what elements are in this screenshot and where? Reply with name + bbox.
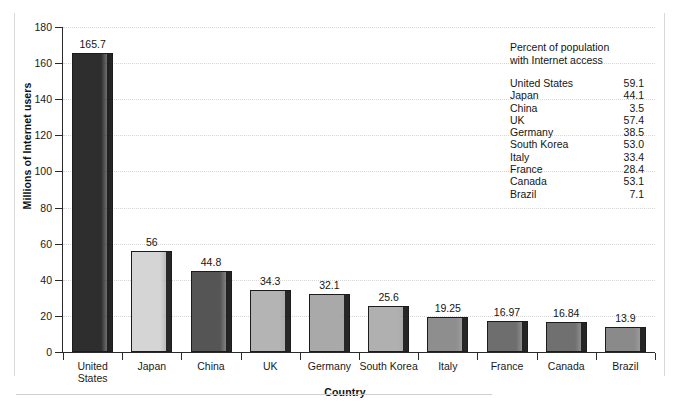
- y-axis-tick: [55, 99, 63, 100]
- annotation-country: China: [510, 102, 611, 114]
- y-axis-tick: [55, 208, 63, 209]
- annotation-country: UK: [510, 114, 611, 126]
- annotation-row: South Korea53.0: [510, 138, 644, 150]
- annotation-percent: 57.4: [611, 114, 644, 126]
- x-axis-category-label: Canada: [537, 361, 596, 373]
- x-axis-category-label: UK: [241, 361, 300, 373]
- bar-value-label: 16.97: [477, 307, 537, 318]
- bar: [487, 321, 528, 352]
- x-axis-tick: [122, 353, 123, 360]
- bar: [605, 327, 646, 352]
- y-axis-tick: [55, 135, 63, 136]
- x-axis-category-label: United States: [63, 361, 122, 384]
- x-axis-category-label: Italy: [418, 361, 477, 373]
- annotation-percent: 28.4: [611, 163, 644, 175]
- bar: [191, 271, 232, 352]
- x-axis-tick: [181, 353, 182, 360]
- y-axis-tick: [55, 352, 63, 353]
- bar: [250, 290, 291, 352]
- y-axis-tick: [55, 171, 63, 172]
- bar-shadow-edge: [226, 272, 231, 351]
- annotation-country: Japan: [510, 89, 611, 101]
- chart-screenshot: 020406080100120140160180 165.75644.834.3…: [0, 0, 690, 417]
- bar-value-label: 165.7: [63, 39, 123, 50]
- annotation-row: Italy33.4: [510, 151, 644, 163]
- bar-shadow-edge: [640, 328, 645, 351]
- bar-shadow-edge: [107, 54, 112, 351]
- annotation-percent: 44.1: [611, 89, 644, 101]
- annotation-title: Percent of population with Internet acce…: [510, 41, 650, 66]
- bar-value-label: 16.84: [536, 308, 596, 319]
- bar-shadow-edge: [462, 318, 467, 351]
- y-axis-title: Millions of Internet users: [21, 51, 33, 241]
- bar-shadow-edge: [581, 323, 586, 351]
- annotation-row: Brazil7.1: [510, 188, 644, 200]
- annotation-panel: Percent of population with Internet acce…: [510, 41, 650, 200]
- annotation-country: South Korea: [510, 138, 611, 150]
- y-axis-tick: [55, 244, 63, 245]
- annotation-country: United States: [510, 77, 611, 89]
- annotation-table: United States59.1Japan44.1China3.5UK57.4…: [510, 77, 644, 200]
- x-axis-category-label: Germany: [300, 361, 359, 373]
- bar-shadow-edge: [522, 322, 527, 351]
- bar-value-label: 13.9: [595, 313, 655, 324]
- bar-value-label: 44.8: [181, 257, 241, 268]
- x-axis-tick: [359, 353, 360, 360]
- annotation-percent: 53.1: [611, 175, 644, 187]
- x-axis-tick: [596, 353, 597, 360]
- x-axis-tick: [63, 353, 64, 360]
- x-axis-tick: [537, 353, 538, 360]
- annotation-row: Canada53.1: [510, 175, 644, 187]
- annotation-row: Japan44.1: [510, 89, 644, 101]
- x-axis-category-label: Japan: [122, 361, 181, 373]
- annotation-country: Canada: [510, 175, 611, 187]
- x-axis-category-label: Brazil: [596, 361, 655, 373]
- bar-shadow-edge: [403, 307, 408, 351]
- annotation-percent: 38.5: [611, 126, 644, 138]
- annotation-row: China3.5: [510, 102, 644, 114]
- annotation-percent: 3.5: [611, 102, 644, 114]
- x-axis-category-label: South Korea: [359, 361, 418, 373]
- x-axis-tick: [477, 353, 478, 360]
- annotation-country: Brazil: [510, 188, 611, 200]
- annotation-percent: 59.1: [611, 77, 644, 89]
- bar-shadow-edge: [344, 295, 349, 351]
- annotation-country: France: [510, 163, 611, 175]
- bar: [427, 317, 468, 352]
- y-axis-tick: [55, 63, 63, 64]
- x-axis-title: Country: [0, 386, 690, 398]
- bar: [72, 53, 113, 352]
- bar-value-label: 25.6: [359, 292, 419, 303]
- x-axis-tick: [418, 353, 419, 360]
- y-axis-tick-label: 0: [8, 347, 52, 358]
- x-axis-tick: [300, 353, 301, 360]
- bar-shadow-edge: [285, 291, 290, 351]
- bar-value-label: 56: [122, 237, 182, 248]
- annotation-percent: 33.4: [611, 151, 644, 163]
- y-axis-tick-label: 180: [8, 22, 52, 33]
- bar: [546, 322, 587, 352]
- bar: [309, 294, 350, 352]
- x-axis-tick: [655, 353, 656, 360]
- annotation-row: France28.4: [510, 163, 644, 175]
- x-axis-tick: [241, 353, 242, 360]
- bar-value-label: 19.25: [418, 303, 478, 314]
- annotation-row: Germany38.5: [510, 126, 644, 138]
- annotation-percent: 7.1: [611, 188, 644, 200]
- bottom-divider: [16, 394, 492, 395]
- y-axis-tick-label: 20: [8, 311, 52, 322]
- bar: [368, 306, 409, 352]
- y-axis-tick: [55, 27, 63, 28]
- bar-value-label: 34.3: [240, 276, 300, 287]
- annotation-country: Italy: [510, 151, 611, 163]
- annotation-country: Germany: [510, 126, 611, 138]
- annotation-row: United States59.1: [510, 77, 644, 89]
- x-axis-category-label: France: [477, 361, 536, 373]
- annotation-percent: 53.0: [611, 138, 644, 150]
- bar-shadow-edge: [166, 252, 171, 351]
- y-axis-tick: [55, 316, 63, 317]
- x-axis-category-label: China: [181, 361, 240, 373]
- bar: [131, 251, 172, 352]
- y-axis-tick: [55, 280, 63, 281]
- y-axis-tick-label: 40: [8, 275, 52, 286]
